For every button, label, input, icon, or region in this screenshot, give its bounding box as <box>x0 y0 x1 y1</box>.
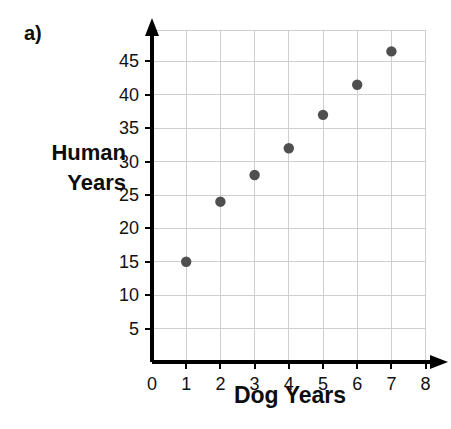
y-tick-label: 35 <box>119 118 139 138</box>
y-tick-label: 30 <box>119 152 139 172</box>
x-tick-label: 3 <box>250 374 260 394</box>
y-tick-label: 10 <box>119 285 139 305</box>
y-tick-labels: 51015202530354045 <box>119 51 139 338</box>
data-point <box>318 110 328 120</box>
y-tick-label: 40 <box>119 85 139 105</box>
x-tick-label: 8 <box>421 374 431 394</box>
y-tick-label: 20 <box>119 218 139 238</box>
data-point <box>284 143 294 153</box>
scatter-plot-figure: a) Human Years Dog Years 510152025303540… <box>0 0 451 429</box>
y-tick-label: 45 <box>119 51 139 71</box>
x-tick-label: 0 <box>147 374 157 394</box>
x-tick-label: 4 <box>284 374 294 394</box>
x-tick-label: 6 <box>352 374 362 394</box>
data-point <box>352 80 362 90</box>
y-tick-label: 25 <box>119 185 139 205</box>
y-axis-arrowhead <box>145 18 159 36</box>
x-tick-label: 5 <box>318 374 328 394</box>
axes <box>145 18 448 369</box>
data-point <box>215 196 225 206</box>
data-point <box>386 46 396 56</box>
x-axis-arrowhead <box>430 355 448 369</box>
x-tick-label: 2 <box>215 374 225 394</box>
x-tick-label: 1 <box>181 374 191 394</box>
x-tick-labels: 012345678 <box>147 374 431 394</box>
tick-marks <box>145 61 426 369</box>
y-tick-label: 15 <box>119 252 139 272</box>
gridlines <box>152 30 426 362</box>
data-point <box>249 170 259 180</box>
plot-area: 51015202530354045 012345678 <box>0 0 451 429</box>
y-tick-label: 5 <box>129 319 139 339</box>
x-tick-label: 7 <box>386 374 396 394</box>
data-point <box>181 257 191 267</box>
